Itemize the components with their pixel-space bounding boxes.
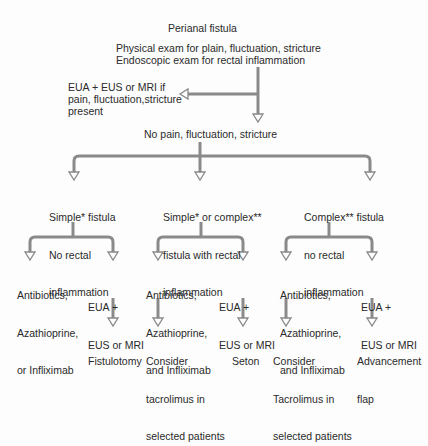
outcome-line: Tacrolimus in xyxy=(273,393,352,406)
outcome-line: Advancement xyxy=(357,355,421,368)
branch-1-outcome-2: Fistulotomy xyxy=(88,330,142,380)
option-line: EUA + xyxy=(361,301,417,314)
branch-1-label-line: Simple* fistula xyxy=(49,211,116,224)
root-title: Perianal fistula xyxy=(168,22,237,35)
root-exam-line-2: Endoscopic exam for rectal inflammation xyxy=(116,54,305,67)
no-pain-node: No pain, fluctuation, stricture xyxy=(144,128,277,141)
option-line: Antibiotics, xyxy=(17,289,78,302)
outcome-line: selected patients xyxy=(273,430,352,443)
outcome-line: Consider xyxy=(273,355,352,368)
branch-3-outcome-1: Consider Tacrolimus in selected patients xyxy=(273,330,352,446)
side-branch-line-3: present xyxy=(68,105,103,118)
outcome-line: selected patients xyxy=(146,430,225,443)
option-line: Azathioprine, xyxy=(17,327,78,340)
option-line: Antibiotics, xyxy=(280,289,345,302)
branch-3-label-line: Complex** fistula xyxy=(304,211,384,224)
option-line: Antibiotics, xyxy=(146,289,211,302)
branch-2-outcome-1: Consider tacrolimus in selected patients xyxy=(146,330,225,446)
branch-2-label-line: Simple* or complex** xyxy=(163,211,262,224)
side-branch-line-1: EUA + EUS or MRI if xyxy=(68,81,165,94)
outcome-line: tacrolimus in xyxy=(146,393,225,406)
option-line: EUA + xyxy=(88,301,144,314)
outcome-line: Seton xyxy=(232,355,259,368)
branch-3-label-line: no rectal xyxy=(304,249,384,262)
option-line: EUA + xyxy=(219,301,275,314)
branch-1-option-1: Antibiotics, Azathioprine, or Infliximab xyxy=(17,264,78,389)
branch-1-label-line: No rectal xyxy=(49,249,116,262)
branch-3-outcome-2: Advancement flap xyxy=(357,330,421,418)
branch-2-label-line: fistula with rectal xyxy=(163,249,262,262)
outcome-line: flap xyxy=(357,393,421,406)
outcome-line: Consider xyxy=(146,355,225,368)
option-line: or Infliximab xyxy=(17,364,78,377)
branch-2-outcome-2: Seton xyxy=(232,330,259,380)
side-branch-line-2: pain, fluctuation,stricture xyxy=(68,93,182,106)
root-exam-line-1: Physical exam for plain, fluctuation, st… xyxy=(116,42,321,55)
outcome-line: Fistulotomy xyxy=(88,355,142,368)
